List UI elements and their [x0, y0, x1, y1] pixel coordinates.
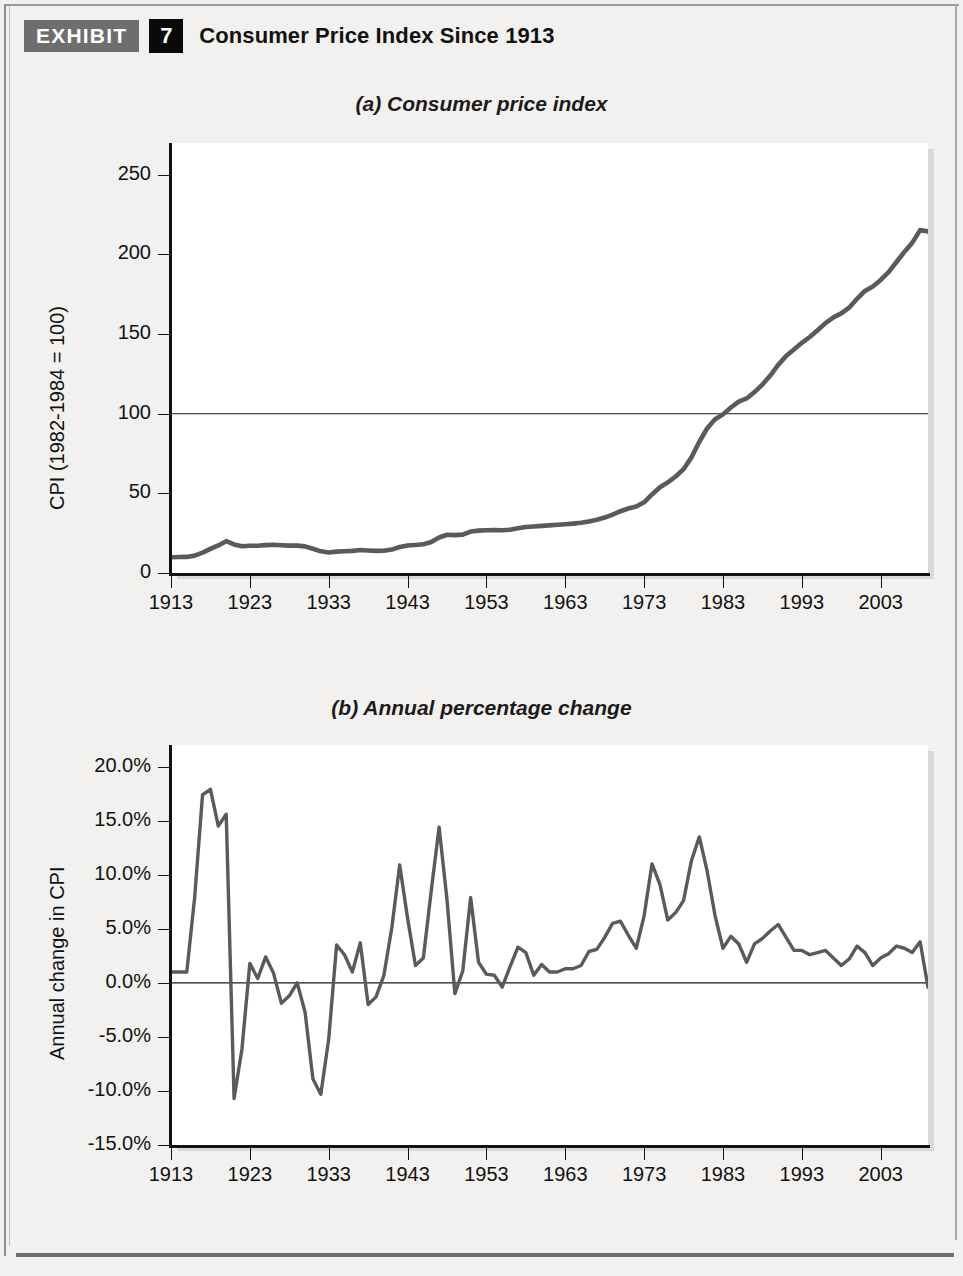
chart-a-x-tick-label: 1933	[284, 591, 374, 614]
chart-b-x-tick-label: 1933	[284, 1163, 374, 1186]
chart-b-y-tick	[158, 1145, 169, 1146]
exhibit-number-badge: 7	[149, 19, 183, 53]
chart-a-y-tick-label: 50	[16, 480, 151, 503]
chart-a-y-tick	[158, 414, 169, 415]
chart-b-y-tick	[158, 929, 169, 930]
exhibit-header: EXHIBIT 7 Consumer Price Index Since 191…	[24, 18, 555, 54]
chart-a-y-tick	[158, 493, 169, 494]
chart-b-x-tick-label: 2003	[836, 1163, 926, 1186]
chart-b-y-tick-label: -5.0%	[16, 1024, 151, 1047]
chart-a-x-tick	[565, 576, 566, 588]
chart-a-x-axis-line	[169, 573, 930, 576]
chart-b-y-tick	[158, 875, 169, 876]
exhibit-label: EXHIBIT	[24, 20, 139, 52]
chart-a-x-tick-label: 1943	[363, 591, 453, 614]
chart-b-x-tick	[486, 1148, 487, 1160]
page-frame-left-inner	[9, 6, 10, 1246]
chart-a-x-tick-label: 1923	[205, 591, 295, 614]
chart-b-x-tick-label: 1943	[363, 1163, 453, 1186]
page-frame-bottom-rule	[16, 1253, 954, 1257]
chart-b-y-tick	[158, 767, 169, 768]
chart-a-title: (a) Consumer price index	[0, 92, 963, 116]
chart-a-y-tick	[158, 175, 169, 176]
chart-a-y-tick	[158, 573, 169, 574]
chart-a-x-tick-label: 1983	[678, 591, 768, 614]
chart-b-x-tick	[408, 1148, 409, 1160]
chart-a-svg	[171, 143, 928, 573]
footer-note	[20, 1264, 950, 1275]
chart-a-plot-area	[171, 143, 928, 573]
chart-b-plot	[171, 745, 928, 1145]
chart-a-y-tick	[158, 334, 169, 335]
page-title: Consumer Price Index Since 1913	[199, 23, 554, 49]
chart-a-y-axis-line	[169, 143, 172, 573]
chart-b-x-tick	[171, 1148, 172, 1160]
chart-a-x-tick	[408, 576, 409, 588]
chart-a-x-tick	[329, 576, 330, 588]
chart-b-svg	[171, 745, 928, 1145]
chart-a-x-tick	[881, 576, 882, 588]
chart-b-y-axis-line	[169, 745, 172, 1145]
chart-b-x-tick-label: 1953	[441, 1163, 531, 1186]
chart-a-x-tick-label: 1973	[599, 591, 689, 614]
chart-b-y-tick	[158, 1091, 169, 1092]
chart-b-title: (b) Annual percentage change	[0, 696, 963, 720]
chart-b-x-tick	[329, 1148, 330, 1160]
chart-b-y-tick	[158, 1037, 169, 1038]
chart-b-x-tick-label: 1993	[757, 1163, 847, 1186]
page-frame-left	[4, 4, 6, 1256]
chart-a-y-tick-label: 100	[16, 401, 151, 424]
exhibit-page: EXHIBIT 7 Consumer Price Index Since 191…	[0, 0, 963, 1276]
chart-b-y-tick	[158, 821, 169, 822]
chart-b-y-tick-label: -15.0%	[16, 1132, 151, 1155]
page-frame-right	[955, 4, 957, 1240]
chart-b-x-axis-line	[169, 1145, 930, 1148]
chart-b-x-tick-label: 1973	[599, 1163, 689, 1186]
chart-a-x-tick	[250, 576, 251, 588]
page-frame-top	[4, 4, 959, 6]
chart-a-y-tick	[158, 254, 169, 255]
chart-b-x-tick	[250, 1148, 251, 1160]
chart-b-y-tick-label: 0.0%	[16, 970, 151, 993]
chart-b-x-tick-label: 1983	[678, 1163, 768, 1186]
chart-a-x-tick-label: 1953	[441, 591, 531, 614]
chart-a-x-tick-label: 1963	[520, 591, 610, 614]
chart-a-y-tick-label: 250	[16, 162, 151, 185]
chart-b-plot-area	[171, 745, 928, 1145]
chart-a-y-tick-label: 0	[16, 560, 151, 583]
chart-a-x-tick	[802, 576, 803, 588]
chart-a-x-tick	[486, 576, 487, 588]
chart-b-x-tick	[565, 1148, 566, 1160]
chart-a-plot	[171, 143, 928, 573]
chart-b-y-tick	[158, 983, 169, 984]
chart-a-y-tick-label: 200	[16, 241, 151, 264]
chart-a-x-tick-label: 1993	[757, 591, 847, 614]
chart-b-y-tick-label: 20.0%	[16, 754, 151, 777]
chart-b-x-tick-label: 1923	[205, 1163, 295, 1186]
chart-a-x-tick	[171, 576, 172, 588]
chart-b-y-tick-label: 5.0%	[16, 916, 151, 939]
chart-b-x-tick-label: 1913	[126, 1163, 216, 1186]
chart-b-x-tick	[881, 1148, 882, 1160]
chart-b-y-tick-label: 15.0%	[16, 808, 151, 831]
chart-a-x-tick	[644, 576, 645, 588]
chart-a-y-tick-label: 150	[16, 321, 151, 344]
chart-b-x-tick	[644, 1148, 645, 1160]
chart-b-x-tick	[802, 1148, 803, 1160]
chart-a-x-tick-label: 1913	[126, 591, 216, 614]
chart-b-x-tick	[723, 1148, 724, 1160]
chart-b-y-tick-label: -10.0%	[16, 1078, 151, 1101]
chart-a-x-tick-label: 2003	[836, 591, 926, 614]
chart-a-x-tick	[723, 576, 724, 588]
chart-b-x-tick-label: 1963	[520, 1163, 610, 1186]
chart-b-y-tick-label: 10.0%	[16, 862, 151, 885]
